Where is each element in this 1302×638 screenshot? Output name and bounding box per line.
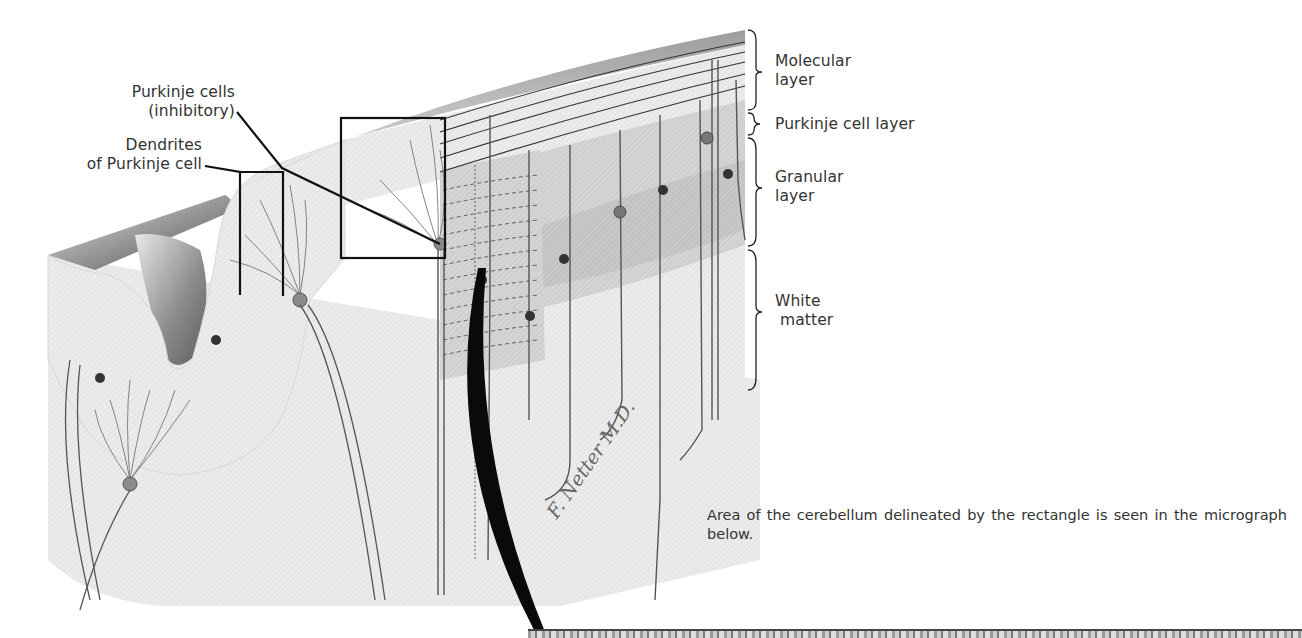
purkinje-cells-label-line2: (inhibitory)	[100, 102, 235, 121]
purkinje-cells-label: Purkinje cells (inhibitory)	[100, 83, 235, 121]
white-matter-label: White matter	[775, 292, 833, 330]
dendrites-label-line1: Dendrites	[66, 136, 202, 155]
figure-caption: Area of the cerebellum delineated by the…	[707, 506, 1287, 544]
purkinje-cells-label-line1: Purkinje cells	[100, 83, 235, 102]
white-matter-label-line1: White	[775, 292, 833, 311]
molecular-layer-label-line1: Molecular	[775, 52, 851, 71]
dendrites-label: Dendrites of Purkinje cell	[66, 136, 202, 174]
micrograph-image	[528, 629, 1302, 638]
purkinje-cell-layer-label: Purkinje cell layer	[775, 115, 915, 134]
granular-layer-label: Granular layer	[775, 168, 844, 206]
purkinje-cell-layer-label-line1: Purkinje cell layer	[775, 115, 915, 134]
layer-braces	[748, 30, 762, 390]
molecular-layer-label: Molecular layer	[775, 52, 851, 90]
white-matter-label-line2: matter	[775, 311, 833, 330]
granular-layer-label-line1: Granular	[775, 168, 844, 187]
granular-layer-label-line2: layer	[775, 187, 844, 206]
molecular-layer-label-line2: layer	[775, 71, 851, 90]
dendrites-label-line2: of Purkinje cell	[66, 155, 202, 174]
